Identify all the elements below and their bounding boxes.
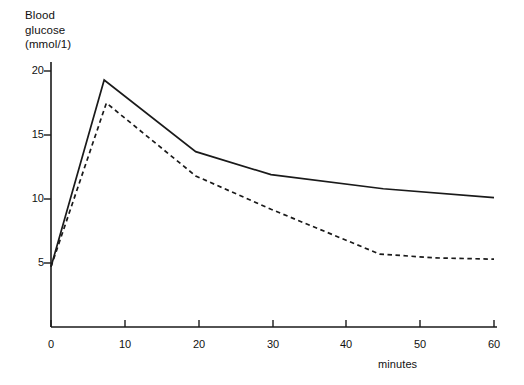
series-solid-curve: [51, 80, 494, 267]
y-axis-ticks: [44, 71, 51, 263]
plot-area: [0, 0, 524, 385]
x-axis-ticks: [51, 320, 494, 327]
series-dashed-curve: [51, 103, 494, 267]
blood-glucose-chart: Bloodglucose(mmol/1) minutes 20 15 10 5 …: [0, 0, 524, 385]
